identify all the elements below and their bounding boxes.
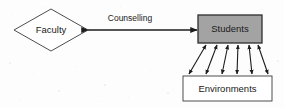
fan-connector xyxy=(237,45,238,74)
node-students[interactable]: Students xyxy=(198,15,262,43)
fan-connector xyxy=(189,45,206,74)
edge-students-environments-fan[interactable] xyxy=(189,45,268,74)
diagram-canvas: Faculty Counselling Students Environment… xyxy=(0,0,284,108)
node-faculty[interactable]: Faculty xyxy=(14,9,88,51)
students-label: Students xyxy=(211,23,249,34)
fan-connector xyxy=(258,45,268,74)
edge-faculty-students[interactable]: Counselling xyxy=(88,13,197,30)
fan-connector xyxy=(249,45,252,74)
fan-connector xyxy=(206,45,217,74)
diagram-svg: Faculty Counselling Students Environment… xyxy=(0,0,284,108)
fan-connector xyxy=(222,45,228,74)
node-environments[interactable]: Environments xyxy=(183,76,272,101)
counselling-edge-label: Counselling xyxy=(108,13,153,23)
faculty-label: Faculty xyxy=(36,24,67,35)
environments-label: Environments xyxy=(198,83,256,94)
